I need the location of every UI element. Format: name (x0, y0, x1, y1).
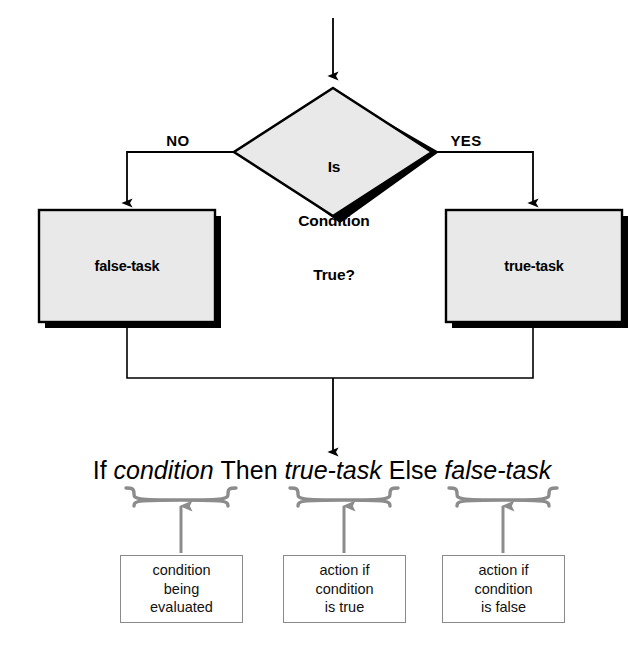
brace-false-task (449, 488, 557, 506)
flowchart-canvas: NO YES Is Condition True? false-task tru… (0, 0, 644, 658)
formula-false-task: false-task (444, 456, 551, 484)
formula-line: If condition Then true-task Else false-t… (0, 456, 644, 485)
note-false-task-line1: action if (443, 561, 564, 580)
connector-yes-branch (432, 152, 533, 203)
process-label-true-task: true-task (446, 258, 622, 274)
note-box-condition: condition being evaluated (120, 555, 243, 623)
connector-merge (127, 322, 533, 452)
connector-no-branch (127, 152, 234, 203)
note-box-true-task: action if condition is true (283, 555, 406, 623)
note-condition-line1: condition (121, 561, 242, 580)
note-true-task-line3: is true (284, 598, 405, 617)
formula-then: Then (221, 456, 278, 484)
decision-text-line2: Condition (278, 212, 390, 230)
decision-text-line1: Is (278, 158, 390, 176)
decision-text: Is Condition True? (278, 122, 390, 320)
note-condition-line2: being (121, 580, 242, 599)
note-true-task-text: action if condition is true (284, 561, 405, 618)
formula-if: If (93, 456, 107, 484)
note-condition-text: condition being evaluated (121, 561, 242, 618)
note-true-task-line2: condition (284, 580, 405, 599)
branch-label-yes: YES (441, 133, 491, 150)
branch-label-no: NO (155, 133, 201, 150)
brace-true-task (290, 488, 398, 506)
formula-true-task: true-task (285, 456, 382, 484)
brace-condition (126, 488, 236, 506)
formula-condition: condition (114, 456, 214, 484)
decision-text-line3: True? (278, 266, 390, 284)
formula-else: Else (389, 456, 438, 484)
note-false-task-text: action if condition is false (443, 561, 564, 618)
note-false-task-line2: condition (443, 580, 564, 599)
process-label-false-task: false-task (39, 258, 215, 274)
note-true-task-line1: action if (284, 561, 405, 580)
note-condition-line3: evaluated (121, 598, 242, 617)
note-box-false-task: action if condition is false (442, 555, 565, 623)
note-false-task-line3: is false (443, 598, 564, 617)
